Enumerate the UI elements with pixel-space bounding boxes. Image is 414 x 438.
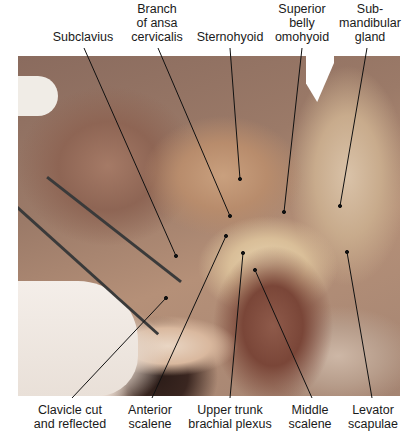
- label-anterior-scalene: Anterior scalene: [128, 403, 172, 431]
- leader-endpoint-dot: [164, 296, 167, 299]
- label-text: Upper trunk: [188, 403, 271, 417]
- leader-line: [284, 48, 302, 212]
- label-text: Sternohyoid: [197, 30, 264, 44]
- label-text: scalene: [288, 417, 331, 431]
- anatomy-figure: Subclavius Branch of ansa cervicalis Ste…: [0, 0, 414, 438]
- leader-endpoint-dot: [228, 214, 231, 217]
- leader-line: [158, 48, 230, 216]
- label-submandibular-gland: Sub- mandibular gland: [339, 2, 401, 44]
- leader-line: [84, 48, 176, 256]
- label-text: Middle: [288, 403, 331, 417]
- label-text: mandibular: [339, 16, 401, 30]
- leader-endpoint-dot: [253, 268, 256, 271]
- label-text: of ansa: [131, 16, 182, 30]
- leader-line: [340, 48, 367, 206]
- leader-line: [230, 48, 240, 179]
- label-text: Levator: [348, 403, 398, 417]
- leader-line: [230, 253, 243, 398]
- leader-line: [72, 298, 166, 398]
- leader-line: [255, 270, 312, 398]
- label-clavicle-cut-reflected: Clavicle cut and reflected: [34, 403, 106, 431]
- leader-endpoint-dot: [174, 254, 177, 257]
- leader-endpoint-dot: [238, 177, 241, 180]
- label-text: Clavicle cut: [34, 403, 106, 417]
- label-superior-belly-omohyoid: Superior belly omohyoid: [275, 2, 329, 44]
- leader-endpoint-dot: [345, 250, 348, 253]
- label-subclavius: Subclavius: [53, 30, 113, 44]
- label-levator-scapulae: Levator scapulae: [348, 403, 398, 431]
- label-text: Anterior: [128, 403, 172, 417]
- leader-line: [347, 252, 372, 398]
- label-text: cervicalis: [131, 30, 182, 44]
- leader-endpoint-dot: [224, 234, 227, 237]
- leader-endpoint-dot: [241, 251, 244, 254]
- label-upper-trunk-brachial-plexus: Upper trunk brachial plexus: [188, 403, 271, 431]
- label-text: omohyoid: [275, 30, 329, 44]
- label-text: Subclavius: [53, 30, 113, 44]
- label-middle-scalene: Middle scalene: [288, 403, 331, 431]
- label-text: Superior: [275, 2, 329, 16]
- label-text: scalene: [128, 417, 172, 431]
- leader-endpoint-dot: [282, 210, 285, 213]
- label-text: Branch: [131, 2, 182, 16]
- label-text: Sub-: [339, 2, 401, 16]
- leader-endpoint-dot: [338, 204, 341, 207]
- leader-line: [152, 236, 226, 398]
- leader-lines: [0, 0, 414, 438]
- label-text: scapulae: [348, 417, 398, 431]
- label-text: belly: [275, 16, 329, 30]
- label-branch-ansa-cervicalis: Branch of ansa cervicalis: [131, 2, 182, 44]
- label-text: brachial plexus: [188, 417, 271, 431]
- label-text: and reflected: [34, 417, 106, 431]
- label-sternohyoid: Sternohyoid: [197, 30, 264, 44]
- label-text: gland: [339, 30, 401, 44]
